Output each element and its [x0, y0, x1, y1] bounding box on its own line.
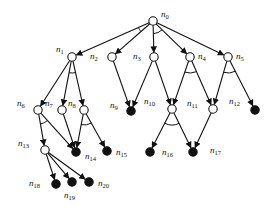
label-n8: n8	[68, 98, 76, 109]
edge-n0-n5	[157, 23, 224, 55]
edge-n1-n8	[73, 61, 83, 105]
edge-n8-n14	[77, 114, 83, 147]
terminal-node-n20	[85, 178, 93, 186]
and-arc-n0	[138, 27, 141, 31]
and-arc-n4	[185, 72, 197, 73]
edge-n13-n19	[48, 153, 69, 178]
label-n11: n11	[187, 98, 198, 109]
and-arc-n0	[153, 30, 162, 34]
label-n6: n6	[17, 98, 26, 109]
edge-n6-n13	[39, 114, 44, 145]
node-n1	[68, 53, 76, 61]
terminal-node-n14	[72, 148, 80, 156]
label-n20: n20	[98, 178, 109, 189]
node-n3	[150, 53, 158, 61]
edge-n8-n15	[86, 114, 105, 147]
terminal-node-n16	[146, 148, 154, 156]
node-n10	[168, 105, 176, 113]
node-labels: n0n1n2n3n4n5n6n7n8n9n10n11n12n13n14n15n1…	[17, 9, 244, 201]
edge-n13-n18	[46, 154, 54, 180]
node-n6	[34, 106, 42, 114]
label-n3: n3	[133, 51, 141, 62]
node-n2	[108, 53, 116, 61]
node-n4	[186, 53, 194, 61]
label-n2: n2	[90, 51, 98, 62]
terminal-node-n17	[189, 148, 197, 156]
edge-n3-n10	[155, 61, 170, 105]
terminal-node-n12	[251, 106, 259, 114]
label-n14: n14	[85, 151, 97, 162]
terminal-node-n18	[52, 180, 60, 188]
label-n5: n5	[236, 51, 244, 62]
node-n13	[41, 146, 49, 154]
terminal-node-n15	[103, 147, 111, 155]
label-n16: n16	[162, 147, 174, 158]
edge-n5-n11	[214, 61, 227, 104]
node-n5	[224, 53, 232, 61]
edge-n0-n3	[153, 25, 154, 52]
node-n8	[80, 106, 88, 114]
label-n10: n10	[144, 96, 155, 107]
terminal-node-n19	[68, 178, 76, 186]
node-n0	[149, 17, 157, 25]
and-or-tree-diagram: n0n1n2n3n4n5n6n7n8n9n10n11n12n13n14n15n1…	[0, 0, 273, 217]
label-n15: n15	[116, 147, 127, 158]
and-arc-n10	[165, 123, 179, 125]
label-n13: n13	[18, 138, 29, 149]
and-arc-n6	[40, 121, 47, 124]
label-n1: n1	[56, 44, 64, 55]
edge-n11-n17	[195, 113, 211, 148]
edge-n10-n16	[152, 113, 170, 148]
edge-n10-n17	[174, 113, 191, 148]
edge-n2-n9	[113, 61, 129, 107]
label-n19: n19	[64, 190, 75, 201]
and-arc-n5	[224, 71, 236, 73]
label-n0: n0	[161, 9, 169, 20]
label-n17: n17	[210, 145, 222, 156]
terminal-node-n9	[127, 107, 135, 115]
label-n12: n12	[229, 96, 240, 107]
edge-n7-n14	[63, 114, 74, 148]
edge-n4-n11	[192, 61, 211, 105]
label-n18: n18	[29, 178, 40, 189]
label-n9: n9	[110, 100, 118, 111]
and-arcs	[40, 27, 235, 125]
label-n7: n7	[45, 98, 54, 109]
node-n11	[209, 105, 217, 113]
edge-n6-n14	[41, 113, 73, 148]
node-n7	[58, 106, 66, 114]
edge-n0-n2	[116, 24, 150, 54]
label-n4: n4	[198, 51, 207, 62]
and-arc-n8	[81, 123, 91, 125]
edge-n0-n4	[156, 24, 187, 54]
